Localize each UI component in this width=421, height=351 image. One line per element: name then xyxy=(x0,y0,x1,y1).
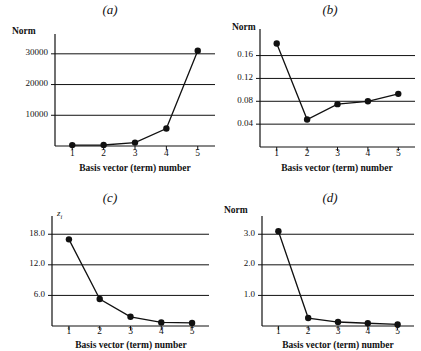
x-tick-label-d-0: 1 xyxy=(268,326,288,336)
x-tick-label-d-1: 2 xyxy=(298,326,318,336)
panel-d: (d)NormBasis vector (term) number1.02.03… xyxy=(0,0,421,351)
figure-four-panel-norm-plots: (a)NormBasis vector (term) number1000020… xyxy=(0,0,421,351)
y-tick-label-d-2: 3.0 xyxy=(199,228,255,238)
data-point-d-1 xyxy=(275,228,281,234)
data-point-d-2 xyxy=(305,315,311,321)
y-tick-label-d-0: 1.0 xyxy=(199,289,255,299)
x-tick-label-d-3: 4 xyxy=(358,326,378,336)
x-tick-label-d-4: 5 xyxy=(388,326,408,336)
x-tick-label-d-2: 3 xyxy=(328,326,348,336)
data-point-d-3 xyxy=(335,319,341,325)
y-tick-label-d-1: 2.0 xyxy=(199,258,255,268)
data-series-line-d xyxy=(278,231,397,324)
